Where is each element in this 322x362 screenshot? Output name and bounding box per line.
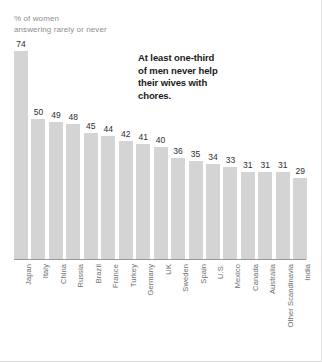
bar[interactable]	[66, 124, 80, 260]
x-axis-category-label: Turkey	[129, 264, 138, 287]
bar[interactable]	[293, 178, 307, 260]
bar-slot: 49	[49, 34, 63, 260]
x-axis-category-label: Italy	[41, 264, 50, 278]
bar[interactable]	[31, 119, 45, 260]
bar[interactable]	[119, 141, 133, 260]
bar-value-label: 42	[121, 129, 130, 139]
bar-slot: 33	[223, 34, 237, 260]
chart-figure: % of women answering rarely or never 745…	[0, 0, 322, 362]
bar-value-label: 40	[156, 135, 165, 145]
bar-slot: 31	[258, 34, 272, 260]
x-axis-category-label: Russia	[76, 264, 85, 288]
bar[interactable]	[136, 144, 150, 260]
bar-value-label: 35	[191, 149, 200, 159]
bar-value-label: 36	[173, 146, 182, 156]
bar-value-label: 41	[138, 132, 147, 142]
bar[interactable]	[14, 51, 28, 260]
bar-value-label: 45	[86, 121, 95, 131]
chart-subtitle: % of women answering rarely or never	[14, 13, 107, 35]
bar-value-label: 31	[261, 160, 270, 170]
bar[interactable]	[49, 122, 63, 260]
x-axis-category-label: France	[111, 264, 120, 288]
x-axis-category-label: Sweden	[181, 264, 190, 292]
bar-value-label: 31	[278, 160, 287, 170]
x-axis-category-label: Brazil	[94, 264, 103, 283]
bar-value-label: 48	[69, 112, 78, 122]
x-axis-category-label: Australia	[268, 264, 277, 294]
bar-value-label: 33	[226, 155, 235, 165]
bar[interactable]	[223, 167, 237, 260]
bar-slot: 44	[101, 34, 115, 260]
bar-slot: 29	[293, 34, 307, 260]
x-axis-category-label: Germany	[146, 264, 155, 296]
x-axis-category-label: Mexico	[233, 264, 242, 288]
x-axis-line	[14, 259, 306, 260]
bar-slot: 31	[276, 34, 290, 260]
bar-slot: 50	[31, 34, 45, 260]
bar[interactable]	[189, 161, 203, 260]
bar-slot: 31	[241, 34, 255, 260]
x-axis-category-label: UK	[164, 264, 173, 275]
bar-value-label: 31	[243, 160, 252, 170]
bar[interactable]	[154, 147, 168, 260]
x-axis-category-label: Japan	[24, 264, 33, 285]
bar-value-label: 34	[208, 152, 217, 162]
bar-slot: 42	[119, 34, 133, 260]
bar[interactable]	[101, 136, 115, 260]
x-axis-category-label: Canada	[251, 264, 260, 291]
chart-annotation: At least one-third of men never help the…	[138, 52, 224, 102]
x-axis-category-label: U.S.	[216, 264, 225, 279]
bar-value-label: 44	[104, 124, 113, 134]
bar-slot: 74	[14, 34, 28, 260]
x-axis-category-label: Spain	[199, 264, 208, 284]
bar-value-label: 50	[34, 107, 43, 117]
bar[interactable]	[258, 172, 272, 260]
bar-value-label: 49	[51, 110, 60, 120]
bar-slot: 48	[66, 34, 80, 260]
x-axis-category-label: China	[59, 264, 68, 284]
bar[interactable]	[241, 172, 255, 260]
bar[interactable]	[206, 164, 220, 260]
bar[interactable]	[276, 172, 290, 260]
bar[interactable]	[84, 133, 98, 260]
bar-value-label: 29	[295, 166, 304, 176]
bar-slot: 45	[84, 34, 98, 260]
bar-value-label: 74	[16, 39, 25, 49]
bar[interactable]	[171, 158, 185, 260]
x-axis-category-label: India	[303, 264, 312, 281]
x-axis-category-label: Other Scandinavia	[286, 264, 295, 327]
